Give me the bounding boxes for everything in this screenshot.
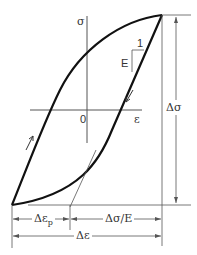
elastic-extension-line	[70, 150, 96, 207]
origin-label: 0	[80, 114, 86, 125]
loading-arrow-icon	[26, 136, 33, 150]
elastic-strain-label: Δσ/E	[103, 213, 134, 224]
delta-eps-p-subscript: p	[48, 218, 53, 227]
delta-eps-p-base: Δε	[34, 212, 48, 225]
arrow-icon	[155, 217, 161, 221]
delta-sigma-arrow-bottom-icon	[174, 197, 178, 203]
total-strain-label: Δε	[74, 230, 92, 241]
slope-run-label: 1	[137, 38, 143, 49]
epsilon-axis-label: ε	[134, 114, 140, 125]
arrow-icon	[13, 234, 19, 238]
delta-sigma-label: Δσ	[166, 100, 181, 115]
delta-sigma-arrow-top-icon	[174, 17, 178, 23]
arrow-icon	[63, 217, 69, 221]
slope-rise-label: E	[121, 58, 128, 69]
arrow-icon	[13, 217, 19, 221]
sigma-axis-label: σ	[77, 16, 85, 27]
arrow-icon	[155, 234, 161, 238]
arrow-icon	[71, 217, 77, 221]
delta-eps-p-label: Δεp	[32, 213, 55, 224]
hysteresis-diagram	[0, 0, 197, 255]
